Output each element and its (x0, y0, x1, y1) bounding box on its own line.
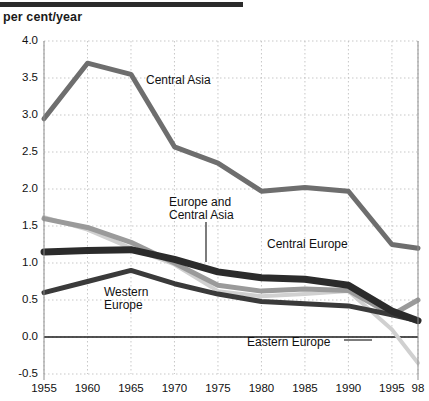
series-label-central-asia: Central Asia (146, 74, 211, 87)
x-axis-tick-label: 1980 (241, 382, 281, 394)
series-label-eastern-europe: Eastern Europe (247, 336, 330, 349)
annotation-line: Central Asia (169, 209, 234, 222)
x-axis-tick-label: 1990 (328, 382, 368, 394)
series-label-europe-and-central-asia: Europe andCentral Asia (169, 196, 234, 222)
x-axis-tick-label: 1960 (67, 382, 107, 394)
y-axis-tick-label: 1.0 (0, 256, 38, 268)
y-axis-tick-label: -0.5 (0, 367, 38, 379)
y-axis-tick-label: 0.5 (0, 293, 38, 305)
x-axis-tick-label: 1970 (154, 382, 194, 394)
annotation-line: Europe (104, 299, 148, 312)
y-axis-tick-label: 4.0 (0, 34, 38, 46)
y-axis-tick-label: 3.0 (0, 108, 38, 120)
y-axis-tick-label: 1.5 (0, 219, 38, 231)
chart-figure: per cent/year 4.03.53.02.52.01.51.00.50.… (0, 0, 429, 401)
x-axis-tick-label: 98 (398, 382, 429, 394)
annotation-line: Central Asia (146, 74, 211, 87)
x-axis-tick-label: 1975 (198, 382, 238, 394)
x-axis-tick-label: 1955 (24, 382, 64, 394)
series-label-central-europe: Central Europe (267, 238, 348, 251)
annotation-line: Eastern Europe (247, 336, 330, 349)
series-label-western-europe: WesternEurope (104, 286, 148, 312)
annotation-line: Central Europe (267, 238, 348, 251)
y-axis-tick-label: 2.0 (0, 182, 38, 194)
x-axis-tick-label: 1965 (111, 382, 151, 394)
y-axis-tick-label: 0.0 (0, 330, 38, 342)
y-axis-tick-label: 2.5 (0, 145, 38, 157)
y-axis-tick-label: 3.5 (0, 71, 38, 83)
x-axis-tick-label: 1985 (285, 382, 325, 394)
